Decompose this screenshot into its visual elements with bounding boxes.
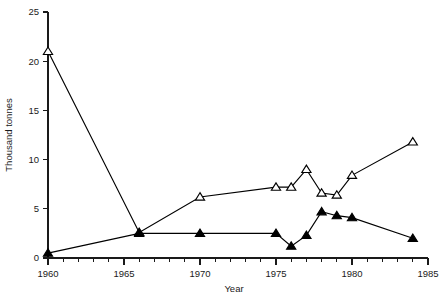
data-point-marker-open — [347, 171, 356, 178]
series-filled-triangle-series — [43, 207, 417, 256]
data-point-marker-filled — [302, 231, 311, 238]
x-tick-label: 1985 — [417, 268, 438, 279]
data-point-marker-filled — [271, 229, 280, 236]
series-polyline — [48, 212, 413, 253]
data-point-marker-filled — [317, 207, 326, 214]
y-axis-title: Thousand tonnes — [3, 98, 14, 172]
x-tick-label: 1960 — [37, 268, 58, 279]
data-series-group — [43, 47, 417, 256]
chart-canvas: 0510152025196019651970197519801985 Year … — [0, 0, 448, 299]
data-point-marker-open — [43, 47, 52, 54]
data-point-marker-open — [271, 183, 280, 190]
y-tick-label: 20 — [28, 56, 39, 67]
data-point-marker-filled — [195, 229, 204, 236]
x-tick-label: 1970 — [189, 268, 210, 279]
data-point-marker-open — [302, 165, 311, 172]
axis-tick-labels: 0510152025196019651970197519801985 — [28, 6, 438, 279]
y-tick-label: 15 — [28, 105, 39, 116]
data-point-marker-open — [317, 189, 326, 196]
x-tick-label: 1975 — [265, 268, 286, 279]
x-axis-title: Year — [224, 283, 243, 294]
y-tick-label: 5 — [34, 203, 39, 214]
line-chart: 0510152025196019651970197519801985 Year … — [0, 0, 448, 299]
x-axis-ticks — [48, 258, 428, 265]
series-polyline — [48, 51, 413, 232]
data-point-marker-open — [408, 138, 417, 145]
y-tick-label: 10 — [28, 154, 39, 165]
series-open-triangle-series — [43, 47, 417, 235]
y-tick-label: 0 — [34, 252, 39, 263]
x-tick-label: 1965 — [113, 268, 134, 279]
x-tick-label: 1980 — [341, 268, 362, 279]
x-axis-minor-ticks — [63, 258, 413, 262]
y-tick-label: 25 — [28, 6, 39, 17]
